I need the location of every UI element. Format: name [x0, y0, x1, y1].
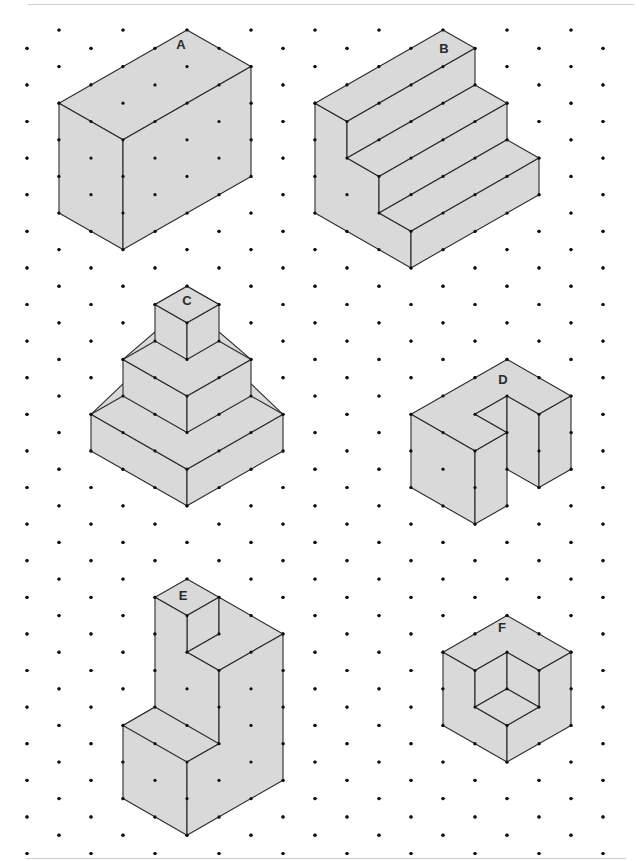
- grid-dot: [377, 797, 380, 800]
- grid-dot: [57, 614, 60, 617]
- grid-dot: [217, 376, 220, 379]
- grid-dot: [25, 303, 28, 306]
- grid-dot: [25, 413, 28, 416]
- grid-dot: [121, 431, 124, 434]
- grid-dot: [569, 614, 572, 617]
- grid-dot: [89, 852, 92, 855]
- grid-dot: [281, 376, 284, 379]
- grid-dot: [153, 815, 156, 818]
- grid-dot: [473, 632, 476, 635]
- grid-dot: [89, 83, 92, 86]
- grid-dot: [89, 523, 92, 526]
- grid-dot: [57, 797, 60, 800]
- grid-dot: [569, 248, 572, 251]
- grid-dot: [473, 266, 476, 269]
- grid-dot: [473, 303, 476, 306]
- grid-dot: [377, 358, 380, 361]
- grid-dot: [537, 742, 540, 745]
- grid-dot: [121, 724, 124, 727]
- grid-dot: [121, 65, 124, 68]
- grid-dot: [217, 83, 220, 86]
- grid-dot: [601, 742, 604, 745]
- grid-dot: [185, 65, 188, 68]
- grid-dot: [217, 266, 220, 269]
- grid-dot: [185, 285, 188, 288]
- grid-dot: [537, 193, 540, 196]
- grid-dot: [377, 504, 380, 507]
- grid-dot: [153, 559, 156, 562]
- grid-dot: [505, 28, 508, 31]
- grid-dot: [121, 285, 124, 288]
- grid-dot: [153, 669, 156, 672]
- shape-label-a: A: [176, 37, 186, 52]
- grid-dot: [345, 266, 348, 269]
- grid-dot: [185, 504, 188, 507]
- grid-dot: [441, 358, 444, 361]
- grid-dot: [153, 852, 156, 855]
- grid-dot: [249, 651, 252, 654]
- grid-dot: [569, 797, 572, 800]
- grid-dot: [25, 376, 28, 379]
- grid-dot: [569, 651, 572, 654]
- grid-dot: [377, 28, 380, 31]
- grid-dot: [249, 431, 252, 434]
- grid-dot: [505, 321, 508, 324]
- grid-dot: [217, 340, 220, 343]
- grid-dot: [57, 394, 60, 397]
- grid-dot: [249, 175, 252, 178]
- grid-dot: [57, 358, 60, 361]
- grid-dot: [249, 614, 252, 617]
- grid-dot: [25, 559, 28, 562]
- grid-dot: [217, 47, 220, 50]
- grid-dot: [313, 431, 316, 434]
- grid-dot: [313, 577, 316, 580]
- grid-dot: [345, 303, 348, 306]
- grid-dot: [89, 230, 92, 233]
- grid-dot: [601, 120, 604, 123]
- grid-dot: [281, 486, 284, 489]
- grid-dot: [249, 760, 252, 763]
- grid-dot: [601, 632, 604, 635]
- grid-dot: [217, 815, 220, 818]
- isometric-dot-grid-worksheet: ABCDEF: [0, 0, 639, 861]
- grid-dot: [537, 852, 540, 855]
- grid-dot: [57, 28, 60, 31]
- grid-dot: [281, 632, 284, 635]
- grid-dot: [473, 559, 476, 562]
- grid-dot: [249, 102, 252, 105]
- grid-dot: [409, 486, 412, 489]
- grid-dot: [25, 449, 28, 452]
- grid-dot: [281, 340, 284, 343]
- grid-dot: [505, 211, 508, 214]
- grid-dot: [89, 559, 92, 562]
- grid-dot: [409, 340, 412, 343]
- grid-dot: [409, 815, 412, 818]
- grid-dot: [377, 285, 380, 288]
- grid-dot: [313, 285, 316, 288]
- grid-dot: [281, 742, 284, 745]
- grid-dot: [313, 65, 316, 68]
- grid-dot: [505, 577, 508, 580]
- grid-dot: [185, 175, 188, 178]
- grid-dot: [25, 486, 28, 489]
- grid-dot: [249, 138, 252, 141]
- grid-dot: [281, 779, 284, 782]
- grid-dot: [249, 687, 252, 690]
- grid-dot: [249, 65, 252, 68]
- grid-dot: [537, 120, 540, 123]
- grid-dot: [441, 102, 444, 105]
- grid-dot: [185, 211, 188, 214]
- grid-dot: [121, 394, 124, 397]
- grid-dot: [537, 230, 540, 233]
- grid-dot: [153, 376, 156, 379]
- grid-dot: [153, 266, 156, 269]
- grid-dot: [537, 596, 540, 599]
- grid-dot: [473, 230, 476, 233]
- grid-dot: [441, 248, 444, 251]
- grid-dot: [249, 358, 252, 361]
- grid-dot: [441, 541, 444, 544]
- grid-dot: [89, 340, 92, 343]
- grid-dot: [89, 157, 92, 160]
- grid-dot: [25, 815, 28, 818]
- grid-dot: [121, 760, 124, 763]
